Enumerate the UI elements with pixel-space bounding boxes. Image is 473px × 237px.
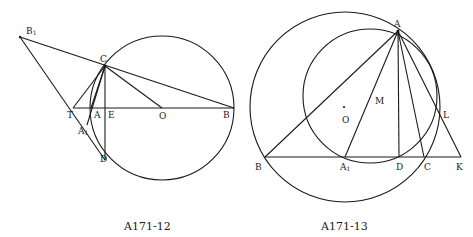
figure-a171-12: B1 C T A E O B A1 D A171-12 [19,26,234,233]
caption-a171-13: A171-13 [320,220,368,233]
label-c: C [424,162,431,172]
line-a-l-k [398,31,461,157]
label-l: L [443,110,449,120]
geometry-figures: B1 C T A E O B A1 D A171-12 A M O L B A1… [0,0,473,237]
inner-circle-m [303,29,437,163]
label-a: A [393,19,401,29]
label-a1: A1 [77,126,88,136]
label-b: B [255,162,262,172]
line-a-a1 [345,31,398,157]
label-m: M [375,96,384,106]
label-e: E [108,110,115,120]
line-b1-t-d [20,37,105,160]
label-d: D [100,154,107,164]
label-a: A [93,110,101,120]
label-o: O [342,115,349,125]
point-o [343,106,345,108]
label-o: O [159,111,166,121]
figure-a171-13: A M O L B A1 D C K A171-13 [250,12,463,233]
line-a-d [398,31,399,157]
label-b1: B1 [26,26,36,36]
point-a [397,30,400,33]
line-c-o [105,66,162,108]
line-c-t [73,66,105,108]
label-k: K [456,162,463,172]
label-b: B [223,110,230,120]
caption-a171-12: A171-12 [123,220,171,233]
label-a1: A1 [339,162,350,172]
point-c [104,65,107,68]
label-c: C [100,54,107,64]
point-b1 [19,36,21,38]
line-a-c [398,31,424,157]
label-d: D [396,162,403,172]
label-t: T [67,110,73,120]
line-a-b [265,31,398,157]
